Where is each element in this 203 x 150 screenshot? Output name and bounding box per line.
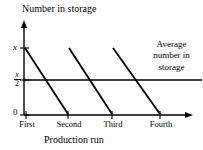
depletion-segment-1 xyxy=(25,48,68,114)
y-tick-label-x: x xyxy=(13,43,17,52)
x-tick-label-first: First xyxy=(19,120,35,129)
average-annotation-line-3: storage xyxy=(159,62,185,72)
fraction-denominator: 2 xyxy=(11,80,23,88)
inventory-sawtooth-chart: Number in storage x x 2 0 First Second T… xyxy=(0,0,203,150)
average-annotation-line-2: number in xyxy=(153,50,190,60)
x-tick-label-fourth: Fourth xyxy=(150,120,173,129)
x-tick-label-third: Third xyxy=(104,120,123,129)
x-axis-title: Production run xyxy=(44,135,104,145)
x-axis-arrowhead xyxy=(185,112,193,118)
average-annotation: Average number in storage xyxy=(142,39,201,73)
y-axis-arrowhead xyxy=(21,20,27,28)
fraction-numerator: x xyxy=(11,71,23,79)
depletion-segment-2 xyxy=(69,48,112,114)
y-tick-label-zero: 0 xyxy=(13,108,18,117)
y-tick-label-x-over-2: x 2 xyxy=(11,71,23,89)
x-tick-label-second: Second xyxy=(56,120,81,129)
y-axis-title: Number in storage xyxy=(22,4,96,14)
average-annotation-line-1: Average xyxy=(157,39,187,49)
